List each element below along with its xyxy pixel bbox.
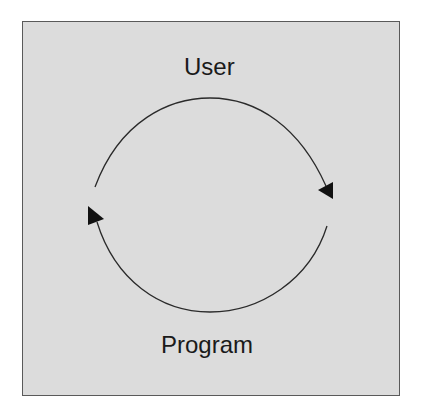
- bottom-arc-arrow: [88, 206, 327, 312]
- arrowhead-left-icon: [88, 206, 104, 225]
- top-arc-arrow: [95, 98, 333, 199]
- cycle-arrows: [0, 0, 424, 419]
